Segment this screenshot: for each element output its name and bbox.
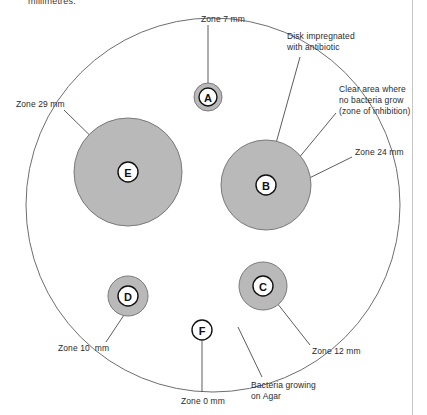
disk-impregnated-label: Disk impregnatedwith antibiotic <box>287 31 355 53</box>
disk-letter-f: F <box>199 325 206 337</box>
clear-area-label: Clear area whereno bacteria grow(zone of… <box>339 84 410 117</box>
zone-10mm-label-line-0: Zone 10 mm <box>58 343 109 354</box>
zone-7mm-label: Zone 7 mm <box>201 14 245 25</box>
zone-12mm-label-line-0: Zone 12 mm <box>312 346 361 357</box>
diagram-canvas: millimetres. AEBDCF Zone 7 mmDisk impreg… <box>0 0 427 415</box>
clear-area-label-line-0: Clear area where <box>339 84 410 95</box>
disk-letter-e: E <box>124 167 131 179</box>
antibiotic-disk-c[interactable]: C <box>253 276 273 296</box>
zone-12mm-label: Zone 12 mm <box>312 346 361 357</box>
clear-area-label-line-1: no bacteria grow <box>339 95 410 106</box>
antibiotic-disk-b[interactable]: B <box>256 175 276 195</box>
zone-10mm-label: Zone 10 mm <box>58 343 109 354</box>
zone-0mm-label: Zone 0 mm <box>181 396 225 407</box>
dish-layer <box>26 18 400 392</box>
zone-7mm-label-line-0: Zone 7 mm <box>201 14 245 25</box>
clear-area-label-line-2: (zone of inhibition) <box>339 106 410 117</box>
disk-letter-b: B <box>262 180 270 192</box>
disk-impregnated-label-line-1: with antibiotic <box>287 42 355 53</box>
antibiotic-disk-a[interactable]: A <box>199 88 217 106</box>
zone-24mm-label: Zone 24 mm <box>355 147 404 158</box>
zone-0mm-label-line-0: Zone 0 mm <box>181 396 225 407</box>
antibiotic-disk-d[interactable]: D <box>118 286 138 306</box>
disk-letter-c: C <box>259 281 267 293</box>
zone-24mm-label-line-0: Zone 24 mm <box>355 147 404 158</box>
antibiotic-disk-e[interactable]: E <box>118 162 138 182</box>
disk-letter-d: D <box>124 291 132 303</box>
bacteria-growing-label: Bacteria growingon Agar <box>251 380 316 402</box>
antibiotic-disk-f[interactable]: F <box>192 320 212 340</box>
bacteria-growing-label-line-1: on Agar <box>251 391 316 402</box>
zone-29mm-label: Zone 29 mm <box>16 99 65 110</box>
disk-letter-a: A <box>204 92 212 104</box>
petri-dish <box>26 18 400 392</box>
zone-29mm-label-line-0: Zone 29 mm <box>16 99 65 110</box>
bacteria-growing-label-line-0: Bacteria growing <box>251 380 316 391</box>
disk-impregnated-label-line-0: Disk impregnated <box>287 31 355 42</box>
